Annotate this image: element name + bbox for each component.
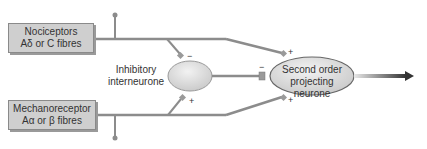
mechanoreceptor-terminal-icon [113, 136, 118, 141]
projection-axon [354, 74, 406, 78]
nociceptors-box: Nociceptors Aδ or C fibres [8, 23, 94, 53]
mechanoreceptor-fibres-label: Aα or β fibres [9, 115, 95, 127]
second-order-label-line1: Second order [272, 64, 352, 76]
second-order-label-line2: projecting neurone [272, 76, 352, 100]
sign-mech-second: + [288, 96, 293, 105]
sign-inhib-second: − [259, 63, 264, 72]
nociceptors-fibres-label: Aδ or C fibres [9, 38, 93, 50]
inhibitory-interneurone-body [168, 61, 212, 91]
inhibitory-interneurone-label: Inhibitory interneurone [100, 64, 172, 88]
sign-noci-inhib: − [187, 52, 192, 61]
inhibitory-label-line1: Inhibitory [100, 64, 172, 76]
synapse-inhib-second-icon [259, 72, 265, 80]
mechanoreceptor-box: Mechanoreceptor Aα or β fibres [8, 100, 96, 130]
nociceptor-terminal-icon [113, 13, 118, 18]
arrow-head-icon [405, 71, 414, 81]
sign-noci-second: + [288, 48, 293, 57]
sign-mech-inhib: + [189, 97, 194, 106]
nociceptors-label: Nociceptors [9, 26, 93, 38]
second-order-neurone-label: Second order projecting neurone [272, 64, 352, 100]
mechanoreceptor-label: Mechanoreceptor [9, 103, 95, 115]
synapse-noci-second-icon [280, 50, 287, 57]
inhibitory-label-line2: interneurone [100, 76, 172, 88]
